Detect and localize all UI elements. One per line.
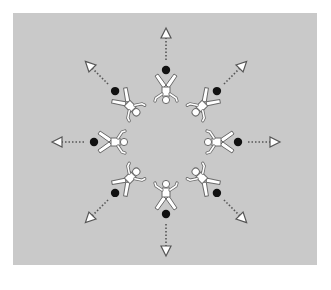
dotted-arrow-line [91, 67, 108, 84]
player-group-e [204, 131, 280, 153]
ball-icon [213, 189, 221, 197]
player-group-sw [85, 161, 146, 222]
player-figure-icon [155, 180, 177, 210]
player-figure-icon [204, 131, 234, 153]
arrowhead-icon [161, 246, 171, 256]
diagram-stage [0, 0, 331, 290]
ball-icon [111, 87, 119, 95]
player-group-ne [185, 61, 246, 122]
dotted-arrow-line [224, 67, 241, 84]
player-figure-icon [98, 131, 128, 153]
arrowhead-icon [236, 212, 247, 223]
arrowhead-icon [52, 137, 62, 147]
arrowhead-icon [85, 61, 96, 72]
ball-icon [162, 66, 170, 74]
arrowhead-icon [236, 61, 247, 72]
arrowhead-icon [161, 28, 171, 38]
radial-players-diagram [0, 0, 331, 290]
ball-icon [234, 138, 242, 146]
player-group-w [52, 131, 128, 153]
player-figure-icon [155, 74, 177, 104]
ball-icon [90, 138, 98, 146]
player-group-se [185, 161, 246, 222]
arrowhead-icon [270, 137, 280, 147]
ball-icon [213, 87, 221, 95]
dotted-arrow-line [224, 200, 241, 217]
ball-icon [111, 189, 119, 197]
dotted-arrow-line [91, 200, 108, 217]
ball-icon [162, 210, 170, 218]
player-group-s [155, 180, 177, 256]
player-group-n [155, 28, 177, 104]
player-group-nw [85, 61, 146, 122]
arrowhead-icon [85, 212, 96, 223]
